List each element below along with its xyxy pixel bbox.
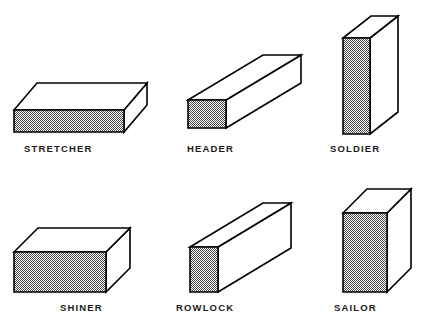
brick-orientation-diagram: STRETCHERHEADERSOLDIERSHINERROWLOCKSAILO… bbox=[0, 0, 421, 326]
brick-sailor bbox=[343, 189, 411, 292]
brick-stretcher-front-face bbox=[14, 110, 124, 132]
brick-sailor-front-face bbox=[343, 213, 387, 292]
brick-soldier-front-face bbox=[343, 38, 370, 134]
brick-rowlock-front-face bbox=[190, 247, 218, 292]
brick-label-stretcher: STRETCHER bbox=[24, 143, 92, 154]
brick-header-front-face bbox=[188, 100, 226, 128]
brick-stretcher bbox=[14, 83, 147, 132]
brick-shiner bbox=[14, 228, 130, 292]
brick-shiner-front-face bbox=[14, 252, 106, 292]
brick-label-sailor: SAILOR bbox=[334, 302, 377, 313]
brick-stretcher-top-face bbox=[14, 83, 147, 110]
brick-soldier bbox=[343, 16, 398, 134]
brick-label-shiner: SHINER bbox=[60, 302, 103, 313]
brick-label-rowlock: ROWLOCK bbox=[176, 302, 234, 313]
brick-label-header: HEADER bbox=[187, 143, 234, 154]
brick-label-soldier: SOLDIER bbox=[330, 143, 380, 154]
